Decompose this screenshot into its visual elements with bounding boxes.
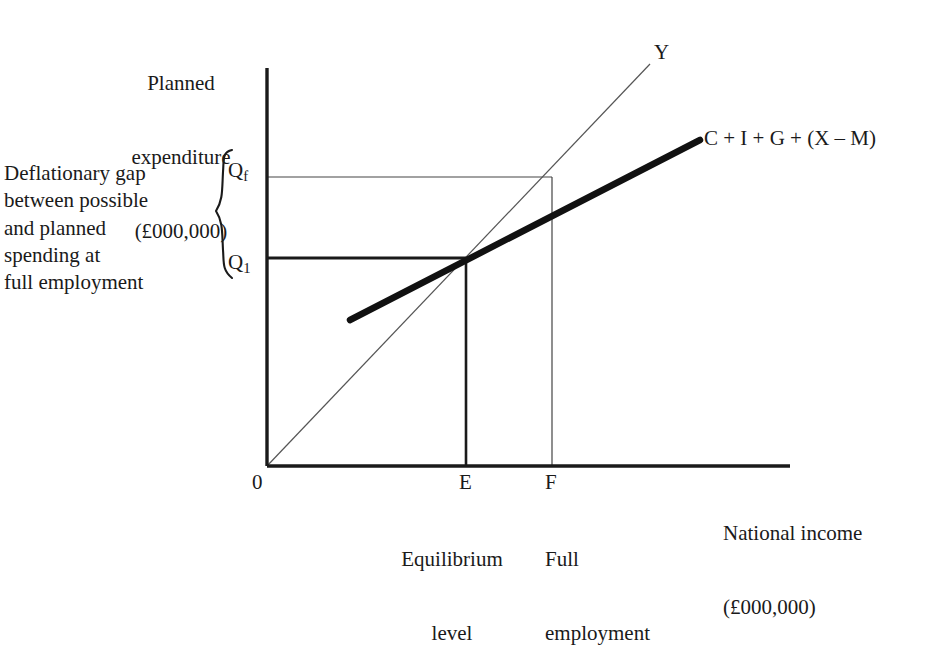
full-employment-note-line2: employment xyxy=(545,621,695,646)
x-tick-label-e: E xyxy=(459,470,472,495)
equilibrium-level-note: Equilibrium level xyxy=(372,498,532,649)
expenditure-line-label: C + I + G + (X – M) xyxy=(704,126,876,151)
full-employment-note: Full employment xyxy=(545,498,695,649)
origin-label: 0 xyxy=(252,470,263,495)
equilibrium-note-line1: Equilibrium xyxy=(372,547,532,572)
x-axis-title: National income (£000,000) xyxy=(723,472,933,649)
y-axis-title-line1: Planned xyxy=(96,71,266,96)
y-tick-label-q1: Q1 xyxy=(228,250,251,277)
x-tick-label-f: F xyxy=(545,470,557,495)
y-tick-q1-base: Q xyxy=(228,250,243,274)
x-axis-title-line2: (£000,000) xyxy=(723,595,933,620)
aggregate-expenditure-line xyxy=(350,140,700,320)
y-tick-label-qf: Qf xyxy=(228,158,248,185)
income-line-label: Y xyxy=(654,40,669,65)
deflationary-gap-annotation: Deflationary gap between possible and pl… xyxy=(4,160,216,296)
y-tick-qf-subscript: f xyxy=(243,168,248,184)
y-tick-q1-subscript: 1 xyxy=(243,260,250,276)
equilibrium-note-line2: level xyxy=(372,621,532,646)
full-employment-note-line1: Full xyxy=(545,547,695,572)
x-axis-title-line1: National income xyxy=(723,521,933,546)
y-tick-qf-base: Q xyxy=(228,158,243,182)
